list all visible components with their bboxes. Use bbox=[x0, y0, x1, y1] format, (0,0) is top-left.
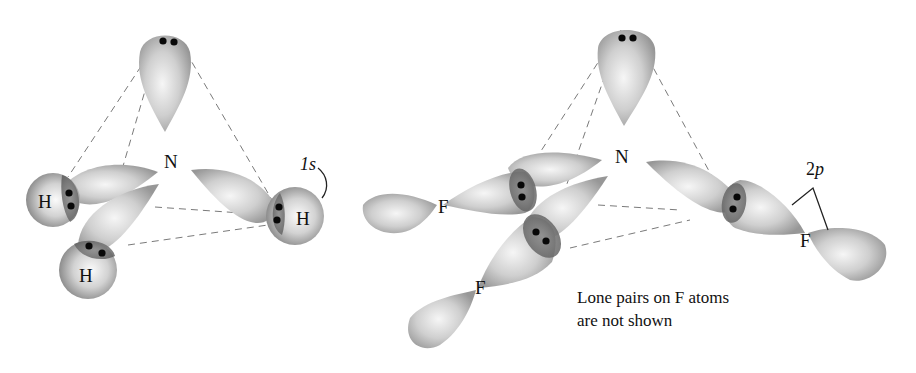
sp3-lobe-h3 bbox=[191, 169, 278, 223]
nh3-molecule: H H H N 1s bbox=[26, 36, 327, 300]
n-atom-label: N bbox=[615, 146, 629, 167]
electron-dot bbox=[733, 193, 740, 200]
electron-dot bbox=[85, 242, 92, 249]
electron-dot bbox=[532, 228, 539, 235]
h-atom-label: H bbox=[38, 191, 52, 212]
n-atom-label: N bbox=[164, 151, 178, 172]
2p-lobe-f2-outer bbox=[408, 290, 476, 348]
orbital-label-1s: 1s bbox=[300, 154, 316, 174]
electron-dot bbox=[65, 189, 72, 196]
electron-dot bbox=[98, 249, 105, 256]
edge-f2-f3 bbox=[570, 220, 690, 248]
h-atom-label: H bbox=[79, 265, 93, 286]
electron-dot bbox=[275, 203, 282, 210]
edge-h2-h3 bbox=[128, 225, 268, 245]
orbital-label-2p: 2p bbox=[806, 159, 824, 179]
electron-dot bbox=[159, 37, 166, 44]
lone-pair-lobe bbox=[139, 36, 191, 133]
electron-dot bbox=[729, 205, 736, 212]
2p-lobe-f3-outer bbox=[808, 228, 886, 281]
1s-pointer bbox=[318, 168, 327, 198]
nf3-molecule: F F F N 2p Lone pairs on F atoms are not… bbox=[363, 30, 887, 348]
electron-dot bbox=[629, 34, 636, 41]
f-atom-label: F bbox=[475, 277, 486, 298]
orbital-diagram: H H H N 1s bbox=[0, 0, 916, 373]
note-line-1: Lone pairs on F atoms bbox=[577, 288, 729, 307]
electron-dot bbox=[518, 193, 525, 200]
orbital-label-number: 2 bbox=[806, 159, 815, 179]
note-line-2: are not shown bbox=[577, 311, 673, 330]
edge-f1-f3 bbox=[598, 205, 680, 210]
electron-dot bbox=[170, 38, 177, 45]
orbital-label-letter: p bbox=[813, 159, 824, 179]
electron-dot bbox=[517, 181, 524, 188]
2p-lobe-f1-outer bbox=[363, 194, 437, 233]
h-atom-label: H bbox=[296, 208, 310, 229]
electron-dot bbox=[273, 216, 280, 223]
electron-dot bbox=[618, 34, 625, 41]
electron-dot bbox=[542, 237, 549, 244]
electron-dot bbox=[67, 202, 74, 209]
lone-pair-lobe bbox=[598, 30, 656, 126]
f-atom-label: F bbox=[438, 196, 449, 217]
f-atom-label: F bbox=[800, 230, 811, 251]
